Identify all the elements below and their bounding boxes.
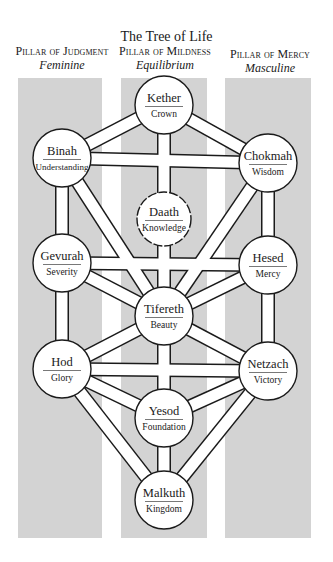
sephirah-meaning: Understanding xyxy=(36,162,89,172)
sephirah-gevurah: GevurahSeverity xyxy=(33,234,91,292)
sephirah-circle xyxy=(135,471,193,529)
sephirah-meaning: Kingdom xyxy=(146,504,183,514)
sephirah-circle xyxy=(239,342,297,400)
sephirah-circle xyxy=(135,76,193,134)
sephirah-meaning: Severity xyxy=(46,267,78,277)
sephirah-name: Gevurah xyxy=(40,249,84,263)
sephirah-daath: DaathKnowledge xyxy=(137,192,191,246)
sephirah-yesod: YesodFoundation xyxy=(135,389,193,447)
sephirah-binah: BinahUnderstanding xyxy=(33,129,91,187)
sephirah-name: Yesod xyxy=(149,404,180,418)
sephirah-name: Malkuth xyxy=(143,486,186,500)
sephirah-circle xyxy=(137,192,191,246)
sephirah-meaning: Wisdom xyxy=(252,167,284,177)
sephirah-netzach: NetzachVictory xyxy=(239,342,297,400)
sephirah-meaning: Mercy xyxy=(256,269,281,279)
path-netzach-hod xyxy=(62,369,268,371)
sephirah-name: Binah xyxy=(47,144,78,158)
sephirah-meaning: Glory xyxy=(51,373,73,383)
tree-of-life-diagram: KetherCrownChokmahWisdomBinahUnderstandi… xyxy=(0,0,333,562)
sephirah-circle xyxy=(135,389,193,447)
sephirah-circle xyxy=(33,129,91,187)
sephirah-name: Daath xyxy=(149,205,180,219)
sephirah-malkuth: MalkuthKingdom xyxy=(135,471,193,529)
sephirah-meaning: Beauty xyxy=(151,320,178,330)
sephirah-circle xyxy=(239,134,297,192)
sephirah-circle xyxy=(33,340,91,398)
sephirah-name: Chokmah xyxy=(244,149,293,163)
sephirah-name: Netzach xyxy=(248,357,290,371)
sephirah-kether: KetherCrown xyxy=(135,76,193,134)
sephirah-meaning: Knowledge xyxy=(142,223,186,233)
sephirah-hesed: HesedMercy xyxy=(239,236,297,294)
sephirah-circle xyxy=(33,234,91,292)
sephirah-tifereth: TiferethBeauty xyxy=(135,287,193,345)
sephirah-meaning: Foundation xyxy=(142,422,186,432)
sephirah-meaning: Crown xyxy=(151,109,177,119)
sephirah-name: Hod xyxy=(51,355,73,369)
sephirah-name: Kether xyxy=(147,91,182,105)
sephirah-circle xyxy=(239,236,297,294)
sephirah-circle xyxy=(135,287,193,345)
path-chokmah-binah xyxy=(62,158,268,163)
sephirah-name: Hesed xyxy=(252,251,284,265)
sephirah-name: Tifereth xyxy=(144,302,185,316)
sephirah-meaning: Victory xyxy=(254,375,283,385)
sephirah-chokmah: ChokmahWisdom xyxy=(239,134,297,192)
sephirah-hod: HodGlory xyxy=(33,340,91,398)
